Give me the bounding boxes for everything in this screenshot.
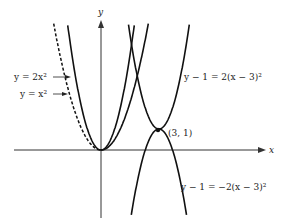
label-point: (3, 1) bbox=[168, 128, 192, 138]
curve-shifted-down bbox=[131, 129, 186, 215]
label-y-eq-2x2: y = 2x² bbox=[13, 72, 47, 82]
label-shifted-down: y − 1 = −2(x − 3)² bbox=[180, 182, 267, 192]
vertex-point-3-1 bbox=[156, 128, 160, 132]
pointer-x2-arrow-icon bbox=[62, 92, 68, 96]
x-axis-arrow-icon bbox=[258, 147, 266, 153]
y-axis-label: y bbox=[97, 7, 104, 17]
curve-shifted-up bbox=[129, 25, 190, 129]
label-shifted-up: y − 1 = 2(x − 3)² bbox=[183, 72, 262, 82]
pointer-2x2-arrow-icon bbox=[65, 75, 71, 79]
x-axis-label: x bbox=[269, 145, 274, 155]
y-axis-arrow-icon bbox=[98, 20, 104, 28]
label-y-eq-x2: y = x² bbox=[19, 89, 47, 99]
parabola-diagram: x y y = 2x² y = x² y − 1 = 2(x − 3)² (3,… bbox=[0, 0, 286, 221]
